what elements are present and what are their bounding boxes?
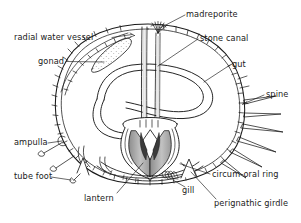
leader-ampulla — [48, 141, 62, 143]
label-gill: gill — [182, 186, 194, 195]
label-spine: spine — [266, 90, 288, 99]
gonad-body — [91, 38, 131, 72]
madreporite — [151, 22, 167, 34]
label-stone-canal: stone canal — [200, 34, 248, 43]
label-madreporite: madreporite — [186, 10, 238, 19]
label-lantern: lantern — [84, 194, 114, 203]
label-ampulla: ampulla — [14, 138, 48, 147]
leader-tube-foot — [51, 177, 71, 180]
label-circum-oral-ring: circum-oral ring — [212, 170, 279, 179]
spines — [221, 96, 283, 178]
esophagus — [141, 27, 147, 122]
leader-stone-canal — [158, 39, 198, 66]
label-radial-water-vessel: radial water vessel — [14, 33, 93, 42]
label-gonad: gonad — [38, 57, 64, 66]
sea-urchin-anatomy-figure: radial water vessel gonad ampulla tube f… — [0, 0, 301, 223]
stone-canal — [155, 33, 160, 124]
label-gut: gut — [232, 60, 246, 69]
label-perignathic-girdle: perignathic girdle — [214, 199, 288, 208]
leader-gut — [204, 65, 230, 82]
label-tube-foot: tube foot — [14, 172, 52, 181]
